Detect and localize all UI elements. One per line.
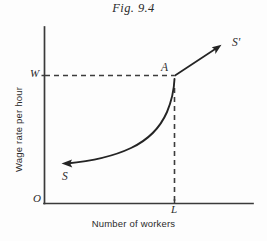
kink-point-label-A: A [161, 62, 168, 74]
x-axis-title: Number of workers [0, 218, 267, 229]
supply-curve-plot [0, 0, 267, 241]
y-axis-title: Wage rate per hour [13, 65, 24, 195]
supply-curve-upper-segment [175, 49, 216, 76]
curve-start-label-S: S [62, 171, 68, 183]
x-axis-value-label-L: L [171, 204, 177, 215]
y-axis-value-label-W: W [30, 68, 39, 79]
origin-label: O [33, 193, 41, 204]
figure-container: Fig. 9.4 W O L A S S' Number of workers … [0, 0, 267, 241]
curve-end-label-S-prime: S' [232, 37, 240, 49]
supply-curve-lower-segment [67, 79, 175, 164]
